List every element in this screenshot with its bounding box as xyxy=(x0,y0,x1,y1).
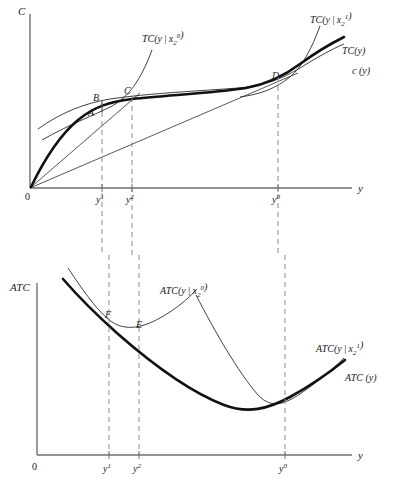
curve-label-tc-x21: TC(y | x21) xyxy=(310,10,352,28)
lower-tick-label-y2: y2 xyxy=(132,462,141,474)
ray-origin-through-D xyxy=(30,73,298,188)
curve-label-atc-x20: ATC(y | x20) xyxy=(159,281,208,299)
upper-origin-label: 0 xyxy=(25,191,30,202)
curve-label-atc-x21: ATC(y | x21) xyxy=(315,339,364,357)
curve-label-tc-x20: TC(y | x20) xyxy=(142,29,184,47)
lower-tick-label-y0: y0 xyxy=(278,462,287,474)
upper-y-axis-label: C xyxy=(18,5,26,17)
curve-label-atc-y: ATC (y) xyxy=(344,372,377,384)
point-label-E: E xyxy=(135,319,142,330)
lower-panel: ATC y 0 y1 y2 y0 F E ATC(y | x20) ATC(y … xyxy=(9,255,377,474)
cost-curves-figure: C y 0 y1 y2 y0 A B C D TC(y | x20) TC(y … xyxy=(0,0,397,482)
curve-label-c-y: c (y) xyxy=(352,65,371,77)
point-label-A: A xyxy=(87,107,95,118)
upper-panel: C y 0 y1 y2 y0 A B C D TC(y | x20) TC(y … xyxy=(18,5,371,255)
lower-x-axis-label: y xyxy=(357,449,363,461)
lower-y-axis-label: ATC xyxy=(9,281,30,293)
atc-long-run-curve xyxy=(63,279,345,410)
curve-label-tc-y: TC(y) xyxy=(342,45,366,57)
upper-tick-label-y0: y0 xyxy=(271,193,280,205)
lower-tick-label-y1: y1 xyxy=(102,462,111,474)
upper-tick-label-y1: y1 xyxy=(95,193,104,205)
upper-x-axis-label: y xyxy=(357,182,363,194)
upper-tick-label-y2: y2 xyxy=(125,193,134,205)
point-label-B: B xyxy=(93,92,99,103)
atc-short-run-x20-curve xyxy=(68,268,196,327)
point-label-F: F xyxy=(104,309,112,320)
point-label-C: C xyxy=(124,85,131,96)
point-label-D: D xyxy=(271,70,280,81)
lower-origin-label: 0 xyxy=(32,461,37,472)
ray-origin-through-C xyxy=(30,93,140,188)
tc-long-run-curve xyxy=(31,37,344,187)
